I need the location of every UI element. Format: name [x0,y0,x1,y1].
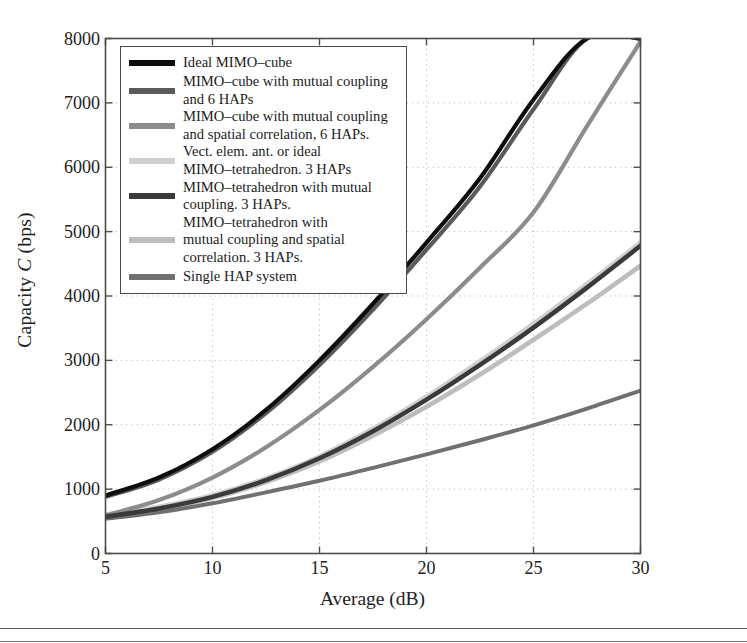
page-divider-line-secondary [0,641,747,642]
legend-color-swatch [129,88,175,94]
x-tick-label: 15 [290,558,350,579]
legend-color-swatch [129,60,175,66]
chart-legend: Ideal MIMO–cubeMIMO–cube with mutual cou… [120,46,407,294]
legend-entry-label: Vect. elem. ant. or ideal MIMO–tetrahedr… [183,143,351,178]
legend-entry: Vect. elem. ant. or ideal MIMO–tetrahedr… [127,143,401,178]
legend-entry: MIMO–tetrahedron with mutual coupling. 3… [127,179,401,214]
x-tick-label: 30 [611,558,671,579]
legend-entry-label: MIMO–cube with mutual coupling and spati… [183,108,388,143]
legend-entry: MIMO–tetrahedron with mutual coupling an… [127,214,401,267]
legend-entry-label: Single HAP system [183,268,297,286]
x-tick-label: 25 [504,558,564,579]
legend-entry-label: Ideal MIMO–cube [183,54,292,72]
legend-color-swatch [129,237,175,243]
legend-entry: Single HAP system [127,267,401,287]
figure-canvas: Capacity C (bps) 01000200030004000500060… [0,0,747,643]
legend-color-swatch [129,274,175,280]
legend-entry-label: MIMO–cube with mutual coupling and 6 HAP… [183,73,388,108]
legend-entry: MIMO–cube with mutual coupling and 6 HAP… [127,73,401,108]
x-axis-label: Average (dB) [105,588,640,610]
legend-color-swatch [129,158,175,164]
legend-entry-label: MIMO–tetrahedron with mutual coupling. 3… [183,179,372,214]
page-divider-line [0,628,747,629]
x-tick-label: 20 [397,558,457,579]
legend-entry: MIMO–cube with mutual coupling and spati… [127,108,401,143]
legend-color-swatch [129,123,175,129]
legend-entry: Ideal MIMO–cube [127,53,401,73]
x-tick-label: 5 [76,558,136,579]
legend-entry-label: MIMO–tetrahedron with mutual coupling an… [183,214,345,267]
legend-color-swatch [129,193,175,199]
x-tick-label: 10 [183,558,243,579]
